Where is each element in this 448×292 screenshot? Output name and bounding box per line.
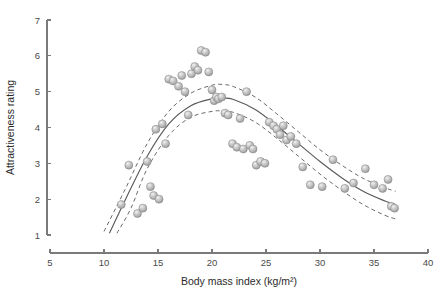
data-point — [202, 48, 210, 56]
data-point — [370, 181, 378, 189]
data-point — [175, 82, 183, 90]
chart-canvas: 1234567 510152025303540 Body mass index … — [0, 0, 448, 292]
data-point — [208, 86, 216, 94]
data-point — [287, 132, 295, 140]
y-tick-label: 6 — [35, 50, 40, 61]
y-tick-label: 1 — [35, 230, 40, 241]
data-point — [236, 115, 244, 123]
data-point — [292, 140, 300, 148]
x-tick-label: 35 — [369, 257, 380, 268]
y-axis-ticks: 1234567 — [35, 15, 51, 241]
x-tick-label: 10 — [99, 257, 110, 268]
data-point — [178, 72, 186, 80]
x-tick-label: 20 — [207, 257, 218, 268]
attractiveness-bmi-scatter-figure: 1234567 510152025303540 Body mass index … — [0, 0, 448, 292]
data-point — [261, 159, 269, 167]
x-axis-ticks: 510152025303540 — [47, 249, 433, 268]
data-point — [306, 181, 314, 189]
data-point — [224, 111, 232, 119]
data-point — [249, 145, 257, 153]
data-point — [205, 68, 213, 76]
data-point — [162, 140, 170, 148]
y-tick-label: 4 — [35, 122, 40, 133]
data-point — [181, 88, 189, 96]
y-tick-label: 2 — [35, 194, 40, 205]
data-point — [143, 158, 151, 166]
data-point — [194, 66, 202, 74]
data-point — [341, 184, 349, 192]
x-tick-label: 5 — [47, 257, 52, 268]
data-point — [361, 165, 369, 173]
x-tick-label: 15 — [153, 257, 164, 268]
x-tick-label: 30 — [315, 257, 326, 268]
x-tick-label: 40 — [423, 257, 434, 268]
data-point — [218, 93, 226, 101]
data-point — [146, 183, 154, 191]
data-point — [125, 161, 133, 169]
x-tick-label: 25 — [261, 257, 272, 268]
data-point — [276, 131, 284, 139]
data-point — [243, 88, 251, 96]
data-point — [379, 184, 387, 192]
data-point — [329, 156, 337, 164]
data-point — [139, 204, 147, 212]
data-point — [384, 175, 392, 183]
data-point — [279, 122, 287, 130]
data-point — [391, 204, 399, 212]
y-tick-label: 3 — [35, 158, 40, 169]
data-point — [117, 201, 125, 209]
data-point — [152, 125, 160, 133]
data-point — [184, 111, 192, 119]
y-tick-label: 7 — [35, 15, 40, 26]
data-point — [318, 183, 326, 191]
data-point — [158, 120, 166, 128]
data-point — [349, 179, 357, 187]
data-point — [155, 195, 163, 203]
x-axis-title: Body mass index (kg/m²) — [181, 275, 297, 287]
y-tick-label: 5 — [35, 86, 40, 97]
y-axis-title: Attractiveness rating — [4, 80, 16, 175]
data-points-group — [117, 46, 398, 217]
data-point — [299, 163, 307, 171]
